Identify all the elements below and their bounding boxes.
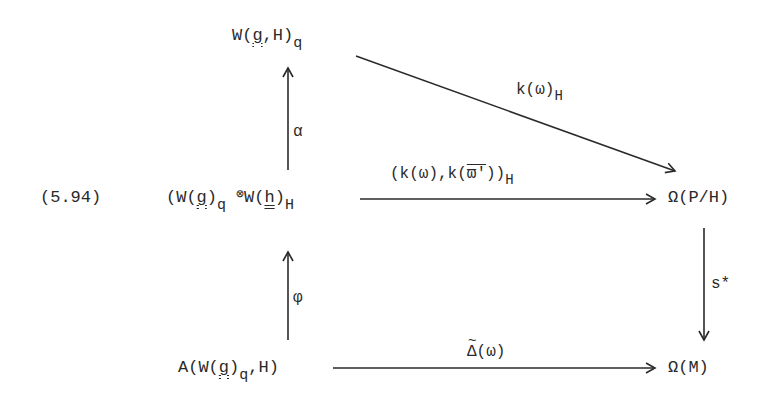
node-text: ) [229,358,239,377]
label-text: (k(ω),k( [390,165,467,183]
node-text: ,H) [248,358,279,377]
subscript: q [239,367,248,384]
label-k-pair: (k(ω),k(ϖ'))H [390,166,514,182]
subscript: q [293,35,302,52]
subscript: H [285,197,294,214]
arrow-k-omega-h [356,56,675,171]
node-text: h [264,188,274,207]
node-weil-algebra-top: W(g,H)q [232,27,302,44]
subscript: H [505,172,513,188]
label-phi: φ [293,290,303,306]
label-k-omega-h: k(ω)H [516,82,563,98]
equation-number: (5.94) [40,189,101,206]
node-text: W( [244,188,264,207]
delta-tilde: Δ [467,344,477,360]
label-alpha: α [293,124,303,140]
node-a-weil: A(W(g)q,H) [178,359,279,376]
node-text: W( [232,26,252,45]
omega-bar: ϖ' [467,165,486,183]
subscript: q [217,197,226,214]
node-text: g [197,188,207,207]
label-text: k(ω) [516,81,554,99]
node-omega-m: Ω(M) [668,359,709,376]
subscript: H [554,88,562,104]
node-text: g [252,26,262,45]
diagram-arrows [0,0,779,405]
label-text: )) [486,165,505,183]
node-omega-p-h: Ω(P/H) [668,189,729,206]
node-text: g [219,358,229,377]
node-text: A(W( [178,358,219,377]
tensor-symbol: ⊗ [236,187,244,202]
label-delta-omega: Δ(ω) [467,344,505,360]
node-text: ) [207,188,217,207]
node-tensor-product: (W(g)q ⊗W(h)H [166,189,294,206]
node-text: (W( [166,188,197,207]
node-text: ,H) [263,26,294,45]
label-s-star: s* [711,276,730,292]
node-text: ) [275,188,285,207]
label-text: (ω) [477,343,506,361]
